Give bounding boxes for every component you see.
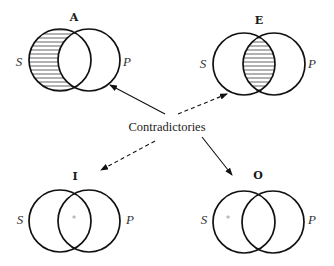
- predicate-label: P: [307, 56, 316, 71]
- subject-label: S: [200, 56, 207, 71]
- contradictories-label: Contradictories: [128, 120, 205, 134]
- square-of-opposition-diagram: A S P E S P I S P * O S P * Contradictor…: [0, 0, 334, 266]
- circle-s: [29, 190, 91, 252]
- circle-s: [213, 191, 275, 253]
- predicate-label: P: [307, 212, 316, 227]
- dashed-arrow-to-e-icon: [178, 94, 227, 114]
- subject-label: S: [16, 54, 23, 69]
- venn-o: O S P *: [201, 169, 316, 253]
- dashed-arrow-to-i-icon: [101, 141, 155, 170]
- predicate-label: P: [122, 54, 131, 69]
- arrow-to-o-icon: [202, 137, 232, 175]
- proposition-label-a: A: [69, 11, 79, 24]
- circle-p: [242, 191, 304, 253]
- venn-e: E S P: [200, 14, 316, 95]
- predicate-label: P: [125, 212, 134, 227]
- venn-a: A S P: [16, 11, 131, 95]
- proposition-label-i: I: [72, 170, 77, 183]
- venn-i: I S P *: [17, 170, 134, 252]
- circle-p: [58, 190, 120, 252]
- subject-label: S: [17, 212, 24, 227]
- subject-label: S: [201, 212, 208, 227]
- hatched-region-s-only: [25, 25, 95, 95]
- proposition-label-o: O: [253, 169, 263, 182]
- existence-star-icon: *: [72, 214, 77, 224]
- existence-star-icon: *: [226, 214, 231, 224]
- arrow-to-a-icon: [110, 85, 165, 114]
- proposition-label-e: E: [255, 14, 263, 27]
